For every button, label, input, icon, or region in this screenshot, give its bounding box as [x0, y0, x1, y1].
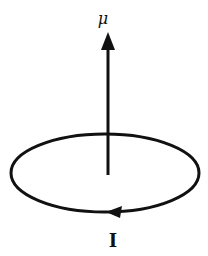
moment-arrowhead-icon [101, 32, 115, 50]
current-direction-arrowhead-icon [106, 206, 122, 218]
moment-label: μ [98, 9, 108, 28]
current-label: I [109, 230, 117, 251]
current-loop-diagram: μ I [0, 0, 208, 256]
current-loop [11, 134, 199, 212]
